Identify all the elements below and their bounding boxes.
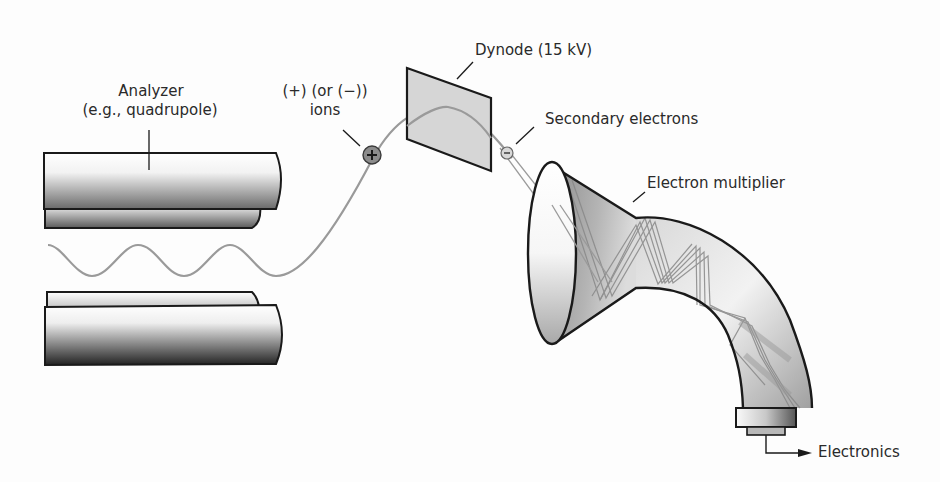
diagram-graphics xyxy=(0,0,940,482)
analyzer-rods xyxy=(44,153,282,365)
positive-ion-icon xyxy=(343,130,381,164)
dynode-label: Dynode (15 kV) xyxy=(475,41,592,59)
electronics-arrow-icon xyxy=(766,435,812,457)
electron-icon xyxy=(501,127,534,159)
dynode-plate xyxy=(407,68,491,171)
electron-multiplier xyxy=(528,162,812,408)
multiplier-leader-line xyxy=(633,192,645,202)
electronics-label: Electronics xyxy=(818,443,900,461)
analyzer-sublabel: (e.g., quadrupole) xyxy=(60,101,240,119)
collector xyxy=(736,408,796,435)
ions-label-line1: (+) (or (−)) xyxy=(270,82,380,100)
diagram-canvas: Analyzer (e.g., quadrupole) (+) (or (−))… xyxy=(0,0,940,482)
analyzer-label-line2: (e.g., quadrupole) xyxy=(60,101,240,119)
ions-label-line2: ions xyxy=(300,101,350,119)
secondary-electrons-label: Secondary electrons xyxy=(545,110,698,128)
analyzer-label: Analyzer xyxy=(96,82,206,100)
ions-sublabel: ions xyxy=(300,101,350,119)
dynode-leader-line xyxy=(457,62,473,79)
analyzer-label-line1: Analyzer xyxy=(96,82,206,100)
ions-label: (+) (or (−)) xyxy=(270,82,380,100)
electron-multiplier-label: Electron multiplier xyxy=(647,174,785,192)
